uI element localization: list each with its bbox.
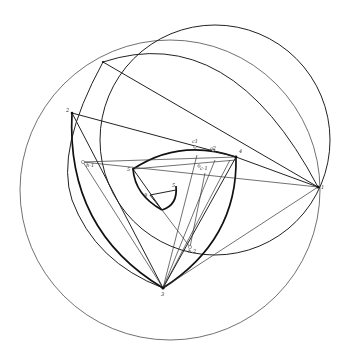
- chord-4-3b: [163, 160, 230, 288]
- label-3: 3: [161, 291, 164, 297]
- innermost-arc: [162, 186, 176, 210]
- point-1: [316, 185, 319, 188]
- point-6: [102, 61, 104, 63]
- label-h1: h-1: [86, 162, 94, 168]
- point-5: [132, 168, 134, 170]
- line-h2-c1: [190, 173, 205, 247]
- point-2: [71, 112, 74, 115]
- label-c1: c1: [192, 138, 198, 144]
- point-h1: [81, 160, 84, 163]
- label-c2: c2: [210, 145, 216, 151]
- outer-circle: [20, 40, 320, 340]
- label-2: 2: [65, 107, 69, 113]
- line-inner-h2: [162, 210, 190, 247]
- line-h1-4: [83, 157, 236, 162]
- upper-circle: [100, 25, 330, 255]
- chord-4-3: [163, 157, 236, 288]
- left-arc: [68, 62, 163, 288]
- point-3: [161, 286, 164, 289]
- label-1: 1: [321, 184, 324, 190]
- label-5: 5: [127, 166, 130, 172]
- label-h2: h-2: [188, 248, 196, 254]
- line-3-c2: [163, 155, 197, 288]
- label-4: 4: [238, 148, 242, 154]
- line-5-4: [133, 160, 236, 169]
- geometric-construction-diagram: 1 2 3 4 5 h-1 h-2 c1 c2 c-1 5 8: [0, 0, 337, 352]
- inner-diagonal: [133, 169, 162, 210]
- label-inner-8: 8: [144, 192, 147, 198]
- line-h1-3: [83, 162, 163, 288]
- point-4: [235, 156, 238, 159]
- label-inner-5: 5: [172, 182, 175, 188]
- label-c3: c-1: [200, 165, 208, 171]
- point-c1: [194, 146, 197, 149]
- innermost-chord: [150, 190, 176, 195]
